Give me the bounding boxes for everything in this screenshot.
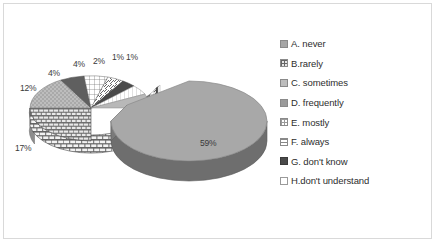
legend-label-c-sometimes: C. sometimes	[291, 77, 348, 88]
data-label-c-sometimes: 12%	[20, 83, 36, 93]
chart-legend: A. never B.rarely C. sometimes D. freque…	[280, 34, 430, 191]
legend-label-d-frequently: D. frequently	[291, 97, 344, 108]
pie-3d-stage: 59% 17% 12% 4% 4% 2% 1% 1%	[4, 4, 272, 238]
legend-item-c-sometimes[interactable]: C. sometimes	[280, 73, 430, 93]
legend-swatch-h-dontunderstand-icon	[280, 177, 288, 185]
legend-label-h-dontunderstand: H.don't understand	[291, 175, 369, 186]
legend-item-e-mostly[interactable]: E. mostly	[280, 112, 430, 132]
legend-item-h-dontunderstand[interactable]: H.don't understand	[280, 171, 430, 191]
legend-label-f-always: F. always	[291, 136, 329, 147]
legend-label-e-mostly: E. mostly	[291, 117, 329, 128]
legend-swatch-b-rarely-icon	[280, 59, 288, 67]
pie-chart-svg	[4, 4, 272, 238]
chart-frame: 59% 17% 12% 4% 4% 2% 1% 1% A. never B.ra…	[3, 3, 432, 239]
legend-label-g-dontknow: G. don't know	[291, 156, 348, 167]
data-label-f-always: 2%	[93, 56, 105, 66]
pie-chart-plot-area: 59% 17% 12% 4% 4% 2% 1% 1%	[4, 4, 272, 238]
legend-swatch-c-sometimes-icon	[280, 79, 288, 87]
legend-swatch-g-dontknow-icon	[280, 157, 288, 165]
data-label-e-mostly: 4%	[73, 59, 85, 69]
legend-swatch-f-always-icon	[280, 138, 288, 146]
legend-item-b-rarely[interactable]: B.rarely	[280, 54, 430, 74]
legend-item-a-never[interactable]: A. never	[280, 34, 430, 54]
legend-item-f-always[interactable]: F. always	[280, 132, 430, 152]
legend-label-b-rarely: B.rarely	[291, 58, 323, 69]
legend-swatch-a-never-icon	[280, 40, 288, 48]
legend-item-g-dontknow[interactable]: G. don't know	[280, 152, 430, 172]
legend-swatch-e-mostly-icon	[280, 118, 288, 126]
legend-item-d-frequently[interactable]: D. frequently	[280, 93, 430, 113]
data-label-g-dontknow: 1%	[112, 52, 124, 62]
legend-label-a-never: A. never	[291, 38, 326, 49]
data-label-b-rarely: 17%	[15, 143, 31, 153]
legend-swatch-d-frequently-icon	[280, 99, 288, 107]
data-label-h-dontunderstand: 1%	[126, 52, 138, 62]
data-label-d-frequently: 4%	[48, 68, 60, 78]
data-label-a-never: 59%	[200, 138, 216, 148]
